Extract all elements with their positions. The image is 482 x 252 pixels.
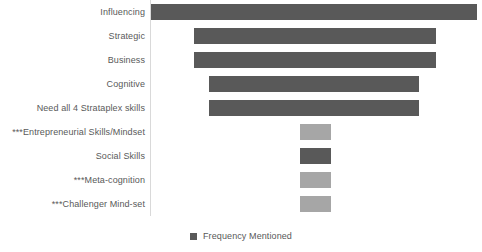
bar-entrepreneurial-skills-mindset[interactable]	[300, 124, 331, 140]
category-label: Business	[108, 48, 150, 72]
bar-chart: Influencing Strategic Business Cognitive…	[0, 0, 482, 252]
chart-row: Influencing	[0, 0, 482, 24]
category-label: Social Skills	[96, 144, 150, 168]
category-label: ***Challenger Mind-set	[52, 192, 150, 216]
chart-row: ***Meta-cognition	[0, 168, 482, 192]
chart-row: Need all 4 Strataplex skills	[0, 96, 482, 120]
category-label: Influencing	[100, 0, 150, 24]
chart-row: ***Entrepreneurial Skills/Mindset	[0, 120, 482, 144]
bar-social-skills[interactable]	[300, 148, 331, 164]
bar-business[interactable]	[194, 52, 436, 68]
category-label: Cognitive	[107, 72, 150, 96]
bar-cognitive[interactable]	[209, 76, 419, 92]
bar-influencing[interactable]	[151, 4, 477, 20]
category-label: ***Meta-cognition	[74, 168, 150, 192]
plot-area: Influencing Strategic Business Cognitive…	[0, 0, 482, 216]
category-label: Strategic	[109, 24, 150, 48]
chart-row: Business	[0, 48, 482, 72]
chart-legend: Frequency Mentioned	[0, 228, 482, 244]
bar-meta-cognition[interactable]	[300, 172, 331, 188]
category-label: ***Entrepreneurial Skills/Mindset	[12, 120, 150, 144]
legend-entry-label: Frequency Mentioned	[203, 231, 292, 241]
bar-challenger-mind-set[interactable]	[300, 196, 331, 212]
chart-row: ***Challenger Mind-set	[0, 192, 482, 216]
bar-strategic[interactable]	[194, 28, 436, 44]
chart-row: Strategic	[0, 24, 482, 48]
chart-row: Cognitive	[0, 72, 482, 96]
legend-swatch-icon	[190, 233, 197, 240]
category-label: Need all 4 Strataplex skills	[37, 96, 150, 120]
bar-need-all-4-strataplex-skills[interactable]	[209, 100, 419, 116]
chart-row: Social Skills	[0, 144, 482, 168]
